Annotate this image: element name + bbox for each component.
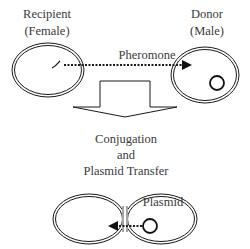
donor-label: Donor bbox=[191, 7, 224, 21]
conjugation-label: Conjugation bbox=[95, 132, 158, 146]
receptor-mark bbox=[52, 61, 60, 68]
transferring-plasmid-icon bbox=[143, 219, 157, 233]
donor-sex-label: (Male) bbox=[190, 24, 224, 38]
recipient-cell bbox=[12, 43, 84, 97]
and-label: and bbox=[117, 148, 136, 162]
recipient-label: Recipient bbox=[23, 7, 71, 21]
conjugation-diagram: Recipient (Female) Donor (Male) Pheromon… bbox=[0, 0, 250, 249]
plasmid-label: Plasmid bbox=[143, 195, 184, 209]
plasmid-transfer-label: Plasmid Transfer bbox=[83, 164, 169, 178]
donor-cell bbox=[171, 47, 239, 103]
process-arrow-icon bbox=[73, 81, 177, 117]
pheromone-label: Pheromone bbox=[119, 48, 176, 62]
plasmid-icon bbox=[210, 76, 224, 90]
recipient-sex-label: (Female) bbox=[24, 24, 69, 38]
